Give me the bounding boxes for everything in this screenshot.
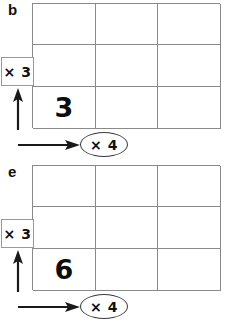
grid-cell[interactable] bbox=[158, 166, 221, 207]
row-multiplier-box-e: × 3 bbox=[1, 219, 34, 248]
grid-cell[interactable] bbox=[96, 4, 158, 45]
grid-cell[interactable] bbox=[33, 45, 96, 87]
grid-cell[interactable] bbox=[158, 207, 221, 249]
column-multiplier-oval-b: × 4 bbox=[80, 132, 128, 157]
grid-cell[interactable] bbox=[96, 45, 158, 87]
grid-cell[interactable] bbox=[96, 207, 158, 249]
grid-cell[interactable] bbox=[158, 249, 221, 291]
row-multiplier-box-b: × 3 bbox=[1, 57, 34, 86]
column-multiplier-oval-e: × 4 bbox=[80, 294, 128, 319]
grid-cell[interactable]: 6 bbox=[33, 249, 96, 291]
grid-cell[interactable] bbox=[158, 45, 221, 87]
grid-cell[interactable] bbox=[96, 87, 158, 129]
right-arrow-icon bbox=[18, 300, 80, 314]
grid-cell[interactable] bbox=[33, 207, 96, 249]
cell-value: 3 bbox=[33, 93, 95, 120]
panel-label-e: e bbox=[8, 164, 16, 179]
grid-cell[interactable] bbox=[33, 166, 96, 207]
grid-b: 3 bbox=[32, 3, 220, 128]
panel-b: b 3 × 3 × 4 bbox=[0, 0, 228, 162]
grid-cell[interactable]: 3 bbox=[33, 87, 96, 129]
grid-cell[interactable] bbox=[158, 4, 221, 45]
up-arrow-icon bbox=[9, 88, 27, 130]
grid-e: 6 bbox=[32, 165, 220, 290]
panel-e: e 6 × 3 × 4 bbox=[0, 162, 228, 324]
grid-cell[interactable] bbox=[158, 87, 221, 129]
grid-cell[interactable] bbox=[33, 4, 96, 45]
right-arrow-icon bbox=[18, 138, 80, 152]
panel-label-b: b bbox=[8, 2, 17, 17]
grid-cell[interactable] bbox=[96, 166, 158, 207]
cell-value: 6 bbox=[33, 255, 95, 282]
up-arrow-icon bbox=[9, 250, 27, 292]
grid-cell[interactable] bbox=[96, 249, 158, 291]
